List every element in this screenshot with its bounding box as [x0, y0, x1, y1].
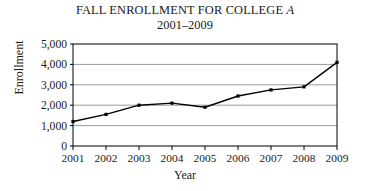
- data-point-marker: [203, 106, 206, 109]
- y-tick-label: 2,000: [41, 99, 67, 112]
- chart-figure: FALL ENROLLMENT FOR COLLEGE A 2001–2009 …: [0, 0, 370, 191]
- gridlines: [70, 44, 337, 146]
- plot-area-wrapper: 01,0002,0003,0004,0005,000 2001200220032…: [0, 0, 370, 191]
- x-tick-label: 2001: [62, 152, 85, 164]
- data-series-line: [73, 62, 337, 121]
- data-point-marker: [236, 94, 239, 97]
- x-tick-label: 2004: [161, 152, 184, 164]
- y-tick-label: 1,000: [41, 120, 67, 133]
- x-tick-label: 2003: [128, 152, 151, 164]
- x-tick-label: 2007: [260, 152, 283, 164]
- y-tick-label: 5,000: [41, 38, 67, 51]
- x-tick-label: 2005: [194, 152, 217, 164]
- y-tick-label: 4,000: [41, 58, 67, 71]
- x-tick-label: 2008: [293, 152, 316, 164]
- data-point-marker: [170, 102, 173, 105]
- data-series-markers: [71, 61, 338, 123]
- data-point-marker: [104, 113, 107, 116]
- x-tick-label: 2009: [326, 152, 349, 164]
- x-tick-label: 2006: [227, 152, 250, 164]
- x-tick-marks: [73, 146, 337, 150]
- y-tick-label: 3,000: [41, 79, 67, 92]
- data-point-marker: [269, 88, 272, 91]
- x-tick-labels: 200120022003200420052006200720082009: [62, 152, 349, 164]
- data-point-marker: [71, 120, 74, 123]
- data-point-marker: [137, 104, 140, 107]
- x-tick-label: 2002: [95, 152, 118, 164]
- data-point-marker: [302, 85, 305, 88]
- x-axis-label: Year: [0, 168, 370, 183]
- plot-frame: [73, 44, 337, 146]
- data-point-marker: [335, 61, 338, 64]
- line-chart-svg: 01,0002,0003,0004,0005,000 2001200220032…: [0, 0, 370, 191]
- y-tick-labels: 01,0002,0003,0004,0005,000: [41, 38, 67, 153]
